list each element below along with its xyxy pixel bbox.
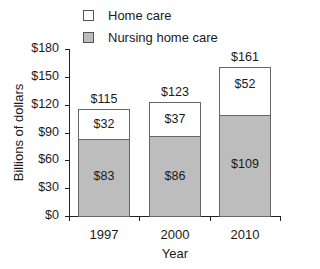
segment-label: $32 (79, 117, 129, 131)
total-label: $161 (219, 50, 271, 64)
y-tick-label: $120 (23, 97, 59, 111)
x-tick (280, 216, 281, 221)
legend-label: Home care (108, 8, 172, 23)
segment-label: $83 (79, 169, 129, 183)
bar-segment-home-care: $37 (149, 102, 201, 137)
y-tick-label: $90 (23, 125, 59, 139)
x-category-label: 1997 (74, 227, 134, 242)
home-care-swatch-icon (83, 10, 94, 21)
bar-segment-home-care: $52 (219, 67, 271, 116)
y-axis-line (69, 49, 70, 217)
y-tick (65, 160, 69, 161)
y-tick-label: $30 (23, 180, 59, 194)
y-tick (65, 49, 69, 50)
x-tick (69, 216, 70, 221)
segment-label: $109 (220, 157, 270, 171)
y-tick (65, 188, 69, 189)
x-axis-label: Year (145, 246, 205, 261)
segment-label: $37 (150, 112, 200, 126)
x-category-label: 2000 (145, 227, 205, 242)
y-tick (65, 105, 69, 106)
segment-label: $52 (220, 77, 270, 91)
nursing-home-care-swatch-icon (83, 32, 94, 43)
y-tick-label: $150 (23, 69, 59, 83)
legend-label: Nursing home care (108, 30, 218, 45)
y-tick (65, 77, 69, 78)
x-tick (139, 216, 140, 221)
legend-item-home-care: Home care (83, 8, 172, 23)
y-tick (65, 133, 69, 134)
bar-segment-nursing-home-care: $86 (149, 136, 201, 217)
bar-segment-nursing-home-care: $83 (78, 139, 130, 217)
total-label: $123 (149, 85, 201, 99)
total-label: $115 (78, 92, 130, 106)
x-category-label: 2010 (215, 227, 275, 242)
legend-item-nursing-home-care: Nursing home care (83, 30, 218, 45)
bar-segment-nursing-home-care: $109 (219, 115, 271, 217)
y-tick-label: $0 (23, 208, 59, 222)
x-tick (210, 216, 211, 221)
y-tick-label: $60 (23, 152, 59, 166)
bar-segment-home-care: $32 (78, 109, 130, 140)
segment-label: $86 (150, 169, 200, 183)
y-tick-label: $180 (23, 41, 59, 55)
